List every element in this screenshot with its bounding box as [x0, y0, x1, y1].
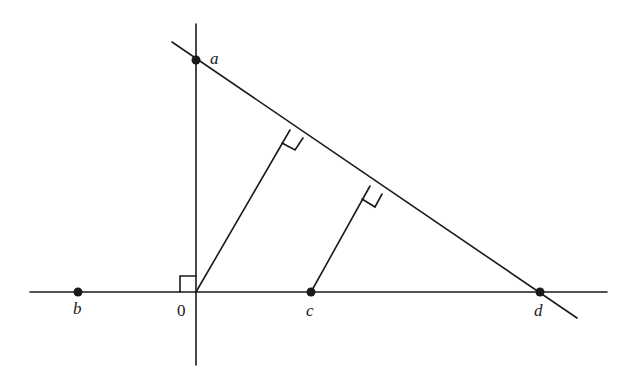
label-c: c	[306, 302, 314, 319]
point-d	[536, 288, 545, 297]
perpendicular-from-origin	[196, 130, 290, 292]
perpendicular-from-c	[311, 186, 370, 292]
point-c	[307, 288, 316, 297]
label-d: d	[534, 302, 543, 319]
label-b: b	[73, 300, 82, 317]
line-ad	[172, 42, 577, 318]
point-a	[192, 56, 201, 65]
right-angle-marker-origin	[180, 276, 196, 292]
point-b	[74, 288, 83, 297]
label-a: a	[210, 50, 219, 67]
label-origin: 0	[177, 302, 186, 319]
